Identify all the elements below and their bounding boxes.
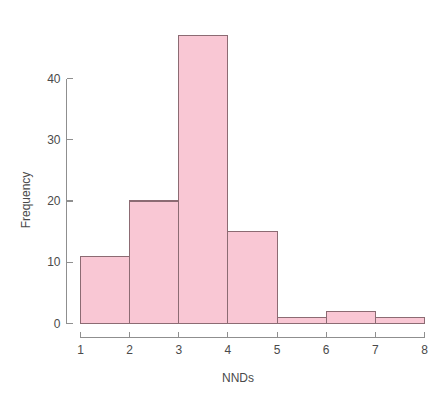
x-tick-label: 1 <box>77 343 84 357</box>
x-tick-label: 7 <box>372 343 379 357</box>
histogram-bar <box>179 36 228 324</box>
bars-group <box>81 36 425 324</box>
histogram-bar <box>130 201 179 324</box>
x-axis-title: NNDs <box>222 371 254 385</box>
x-axis <box>81 332 425 338</box>
plot-area: 010203040 12345678 NNDs Frequency <box>0 0 446 401</box>
x-tick-label: 2 <box>126 343 133 357</box>
x-tick-labels: 12345678 <box>77 343 428 357</box>
x-tick-label: 6 <box>323 343 330 357</box>
y-tick-label: 20 <box>47 194 61 208</box>
histogram-bar <box>81 256 130 323</box>
chart-canvas: 010203040 12345678 NNDs Frequency <box>0 0 446 401</box>
y-tick-label: 10 <box>47 255 61 269</box>
y-tick-label: 0 <box>54 317 61 331</box>
y-tick-label: 30 <box>47 133 61 147</box>
histogram-bar <box>277 317 326 323</box>
y-tick-labels: 010203040 <box>47 72 61 331</box>
x-tick-label: 4 <box>225 343 232 357</box>
y-tick-label: 40 <box>47 72 61 86</box>
histogram-bar <box>228 232 277 324</box>
y-axis <box>67 79 73 324</box>
histogram-bar <box>326 311 375 323</box>
histogram-chart: 010203040 12345678 NNDs Frequency <box>0 0 446 401</box>
y-axis-title: Frequency <box>19 172 33 229</box>
x-tick-label: 3 <box>175 343 182 357</box>
x-tick-label: 8 <box>421 343 428 357</box>
x-tick-label: 5 <box>274 343 281 357</box>
histogram-bar <box>375 317 424 323</box>
